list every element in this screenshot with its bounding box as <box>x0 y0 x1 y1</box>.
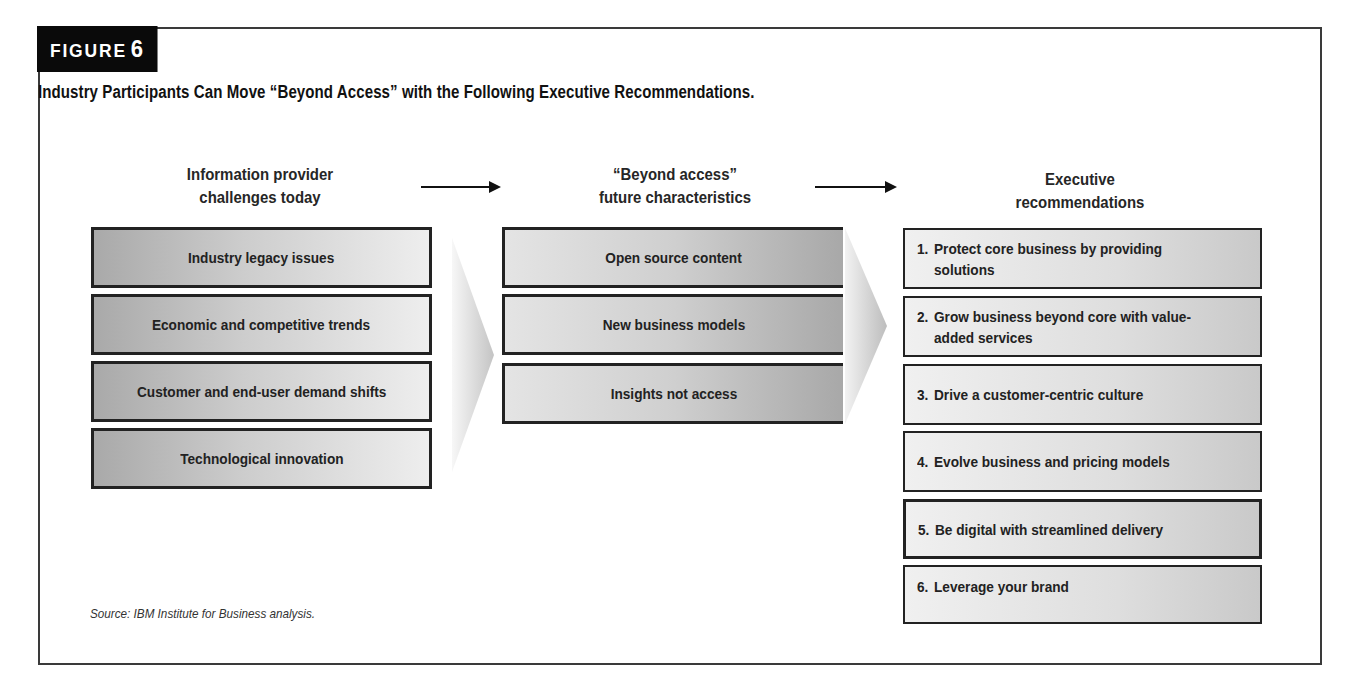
challenge-box: Technological innovation <box>91 428 432 489</box>
recommendation-box: 6.Leverage your brand <box>903 565 1262 624</box>
recommendation-box: 4.Evolve business and pricing models <box>903 431 1262 492</box>
figure-label: FIGURE6 <box>37 26 158 72</box>
chevron-right-icon <box>843 226 889 426</box>
column-header-future: “Beyond access” future characteristics <box>561 163 790 209</box>
header-line: challenges today <box>146 186 375 209</box>
challenge-box: Economic and competitive trends <box>91 294 432 355</box>
recommendation-box: 3.Drive a customer-centric culture <box>903 364 1262 425</box>
recommendation-text: Leverage your brand <box>934 576 1233 597</box>
recommendation-number: 3. <box>917 384 928 405</box>
recommendation-text: Evolve business and pricing models <box>934 451 1233 472</box>
recommendation-text: Grow business beyond core with value-add… <box>934 306 1198 348</box>
column-header-recommendations: Executive recommendations <box>966 168 1195 214</box>
recommendation-box: 1.Protect core business by providing sol… <box>903 228 1262 289</box>
recommendation-number: 6. <box>917 576 928 597</box>
recommendation-box: 5.Be digital with streamlined delivery <box>903 499 1262 559</box>
arrow-right-icon <box>815 186 895 188</box>
future-text: Open source content <box>606 249 742 267</box>
chevron-right-icon <box>450 236 496 474</box>
future-box: Open source content <box>502 227 843 288</box>
recommendation-text: Be digital with streamlined delivery <box>935 519 1234 540</box>
header-line: Information provider <box>146 163 375 186</box>
figure-label-text: FIGURE <box>50 40 127 61</box>
recommendation-number: 2. <box>917 306 928 348</box>
challenge-text: Economic and competitive trends <box>152 316 370 334</box>
challenge-box: Industry legacy issues <box>91 227 432 288</box>
figure-number: 6 <box>131 35 145 62</box>
challenge-box: Customer and end-user demand shifts <box>91 361 432 422</box>
recommendation-text: Protect core business by providing solut… <box>934 238 1198 280</box>
future-box: Insights not access <box>502 363 843 424</box>
recommendation-number: 5. <box>918 519 929 540</box>
recommendation-number: 1. <box>917 238 928 280</box>
arrow-right-icon <box>421 186 499 188</box>
future-text: Insights not access <box>611 385 738 403</box>
challenge-text: Customer and end-user demand shifts <box>137 383 386 401</box>
figure-title: Industry Participants Can Move “Beyond A… <box>38 82 755 103</box>
header-line: Executive <box>966 168 1195 191</box>
recommendation-text: Drive a customer-centric culture <box>934 384 1233 405</box>
future-box: New business models <box>502 294 843 355</box>
recommendation-number: 4. <box>917 451 928 472</box>
header-line: “Beyond access” <box>561 163 790 186</box>
source-note: Source: IBM Institute for Business analy… <box>90 606 315 621</box>
column-header-challenges: Information provider challenges today <box>146 163 375 209</box>
recommendation-box: 2.Grow business beyond core with value-a… <box>903 296 1262 357</box>
header-line: future characteristics <box>561 186 790 209</box>
future-text: New business models <box>603 316 746 334</box>
challenge-text: Industry legacy issues <box>188 249 334 267</box>
header-line: recommendations <box>966 191 1195 214</box>
challenge-text: Technological innovation <box>180 450 343 468</box>
